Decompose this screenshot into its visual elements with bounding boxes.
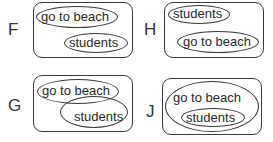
set-label-go-to-beach: go to beach (183, 35, 251, 48)
option-label-f: F (8, 21, 18, 38)
set-label-go-to-beach: go to beach (173, 91, 241, 104)
set-label-students: students (74, 110, 123, 123)
option-label-g: G (8, 97, 21, 114)
set-label-students: students (173, 7, 222, 20)
set-label-students: students (69, 36, 118, 49)
set-label-students: students (186, 111, 235, 124)
option-label-j: J (146, 103, 155, 120)
set-label-go-to-beach: go to beach (41, 10, 109, 23)
set-label-go-to-beach: go to beach (42, 84, 110, 97)
option-label-h: H (144, 21, 156, 38)
